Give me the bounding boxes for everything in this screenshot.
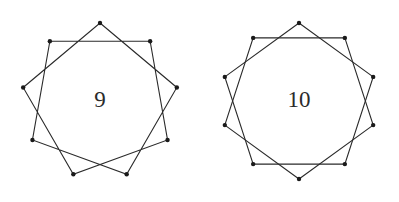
- vertex-dot: [343, 162, 347, 166]
- vertex-dot: [297, 21, 301, 25]
- vertex-dot: [223, 75, 227, 79]
- vertex-dot: [343, 36, 347, 40]
- figure-board: 9 10: [0, 0, 399, 202]
- figure-label-10: 10: [199, 88, 399, 111]
- vertex-dot: [251, 162, 255, 166]
- vertex-dot: [223, 123, 227, 127]
- figure-panel-10: 10: [199, 0, 399, 202]
- vertex-dot: [71, 172, 75, 176]
- vertex-dot: [297, 177, 301, 181]
- vertex-dot: [251, 36, 255, 40]
- vertex-dot: [165, 138, 169, 142]
- vertex-dot: [371, 123, 375, 127]
- vertex-dot: [148, 39, 152, 43]
- vertex-dot: [98, 21, 102, 25]
- vertex-dot: [124, 172, 128, 176]
- vertex-dot: [30, 138, 34, 142]
- figure-panel-9: 9: [0, 0, 200, 202]
- figure-label-9: 9: [0, 88, 200, 111]
- vertex-dot: [371, 75, 375, 79]
- vertex-dot: [48, 39, 52, 43]
